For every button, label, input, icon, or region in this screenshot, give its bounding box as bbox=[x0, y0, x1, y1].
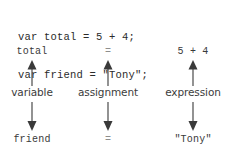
annotation-column-variable: total variable friend bbox=[0, 46, 72, 147]
code-anatomy-figure: var total = 5 + 4; var friend = "Tony"; … bbox=[0, 0, 229, 147]
expression-top-term: 5 + 4 bbox=[153, 46, 229, 58]
arrow-down-icon bbox=[187, 102, 200, 132]
annotation-columns: total variable friend = bbox=[0, 46, 229, 147]
arrow-down-icon bbox=[102, 102, 115, 132]
arrow-up-icon bbox=[187, 60, 200, 86]
assignment-bottom-term: = bbox=[68, 134, 148, 146]
assignment-label: assignment bbox=[68, 86, 148, 99]
expression-label: expression bbox=[153, 86, 229, 99]
annotation-column-assignment: = assignment = bbox=[68, 46, 148, 147]
code-line-1: var total = 5 + 4; bbox=[18, 31, 148, 44]
assignment-top-term: = bbox=[68, 46, 148, 58]
variable-bottom-term: friend bbox=[0, 134, 72, 146]
variable-top-term: total bbox=[0, 46, 72, 58]
arrow-up-icon bbox=[102, 60, 115, 86]
variable-label: variable bbox=[0, 86, 72, 99]
arrow-down-icon bbox=[26, 102, 39, 132]
expression-bottom-term: "Tony" bbox=[153, 134, 229, 146]
arrow-up-icon bbox=[26, 60, 39, 86]
annotation-column-expression: 5 + 4 expression "Tony" bbox=[153, 46, 229, 147]
